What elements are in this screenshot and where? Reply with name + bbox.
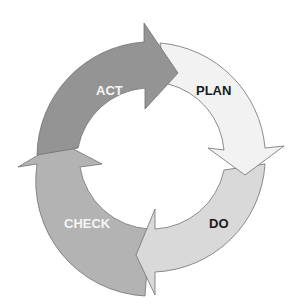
pdca-cycle-diagram: ACT PLAN DO CHECK [0,0,298,307]
act-label: ACT [96,83,123,98]
do-label: DO [209,216,229,231]
check-label: CHECK [64,216,111,231]
do-arrow [136,164,265,295]
plan-arrow [160,43,284,175]
plan-label: PLAN [196,83,231,98]
